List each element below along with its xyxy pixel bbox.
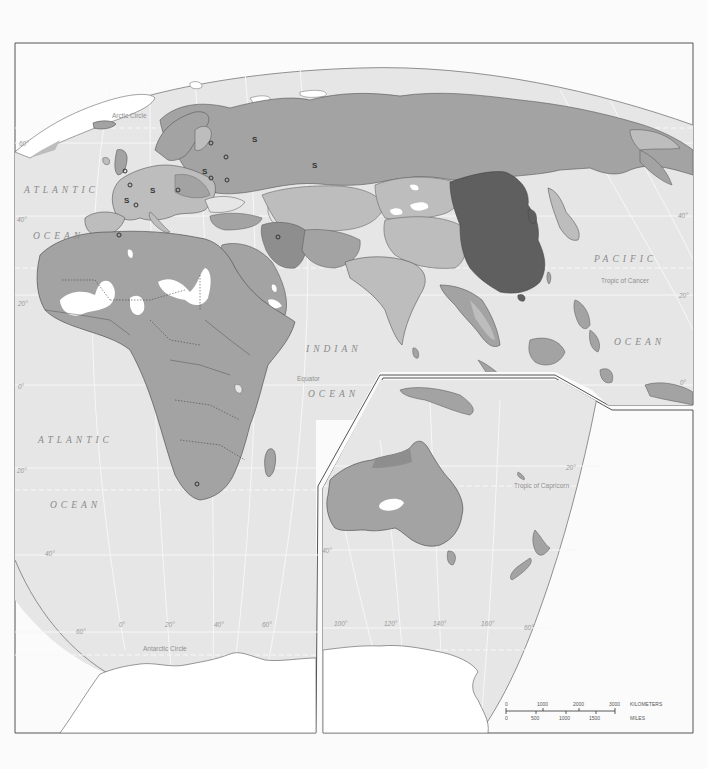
lon-label-20: 20°	[164, 621, 175, 628]
lat-label-20s-right: 20°	[565, 464, 576, 471]
scale-mi-500: 500	[531, 715, 540, 721]
lat-label-60s-inset: 60°	[524, 624, 534, 631]
label-atlantic-north: ATLANTIC	[23, 185, 99, 195]
label-tropic-cancer: Tropic of Cancer	[601, 277, 650, 285]
marker-s: S	[312, 161, 318, 170]
lat-label-60n: 60°	[19, 140, 29, 147]
lon-label-140: 140°	[433, 620, 447, 627]
lon-label-160: 160°	[481, 620, 495, 627]
label-pacific: PACIFIC	[593, 254, 657, 264]
label-antarctic-circle: Antarctic Circle	[143, 645, 187, 652]
label-equator: Equator	[297, 375, 321, 383]
scale-mi-1000: 1000	[559, 715, 570, 721]
marker-s: S	[150, 186, 156, 195]
label-indian: INDIAN	[305, 344, 362, 354]
label-arctic-circle: Arctic Circle	[112, 112, 147, 119]
lon-label-0: 0°	[119, 621, 126, 628]
label-indian-ocean: OCEAN	[308, 389, 359, 399]
scale-km-unit: KILOMETERS	[630, 701, 663, 707]
marker-s: S	[252, 135, 258, 144]
scale-km-0: 0	[505, 701, 508, 707]
lat-label-40n: 40°	[17, 216, 27, 223]
world-map: ATLANTIC OCEAN ATLANTIC OCEAN INDIAN OCE…	[0, 0, 707, 769]
lat-label-40n-right: 40°	[678, 212, 688, 219]
scale-km-2000: 2000	[573, 701, 584, 707]
marker-s: S	[202, 167, 208, 176]
scale-mi-1500: 1500	[589, 715, 600, 721]
lat-label-20s: 20°	[16, 467, 27, 474]
scale-mi-unit: MILES	[630, 715, 646, 721]
lat-label-20n: 20°	[17, 300, 28, 307]
label-atlantic-south: ATLANTIC	[37, 435, 113, 445]
lon-label-40: 40°	[214, 621, 224, 628]
lat-label-40s-inset: 40°	[322, 547, 332, 554]
lat-label-20n-right: 20°	[678, 292, 689, 299]
label-atlantic-north-ocean: OCEAN	[33, 231, 84, 241]
scale-km-1000: 1000	[537, 701, 548, 707]
lat-label-40s: 40°	[45, 550, 55, 557]
lat-label-0: 0°	[18, 383, 25, 390]
label-tropic-capricorn: Tropic of Capricorn	[514, 482, 569, 490]
lon-label-100: 100°	[334, 620, 348, 627]
marker-s: S	[124, 196, 130, 205]
lon-label-120: 120°	[384, 620, 398, 627]
lat-label-0-right: 0°	[680, 379, 687, 386]
lat-label-60s: 60°	[76, 628, 86, 635]
scale-mi-0: 0	[505, 715, 508, 721]
label-pacific-ocean: OCEAN	[614, 337, 665, 347]
scale-km-3000: 3000	[609, 701, 620, 707]
lon-label-60: 60°	[262, 621, 272, 628]
label-atlantic-south-ocean: OCEAN	[50, 500, 101, 510]
